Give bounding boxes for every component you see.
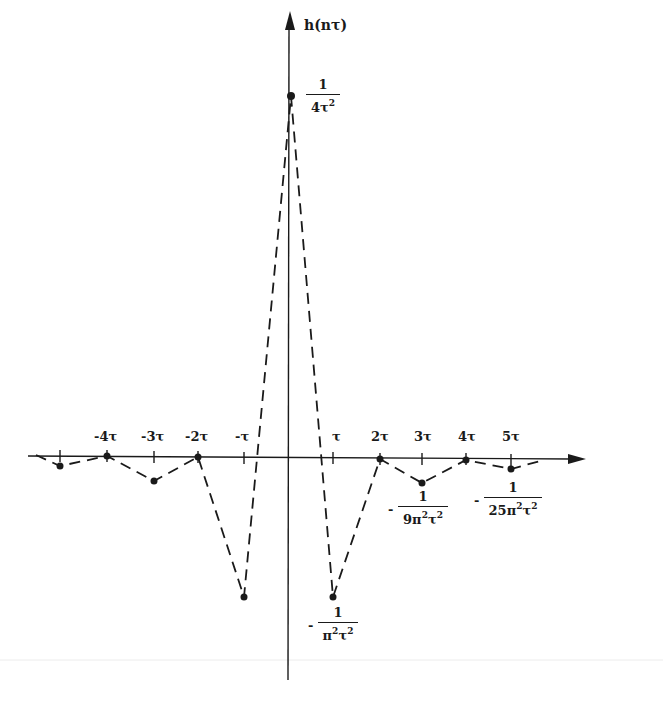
n5-den-a: 25π bbox=[489, 503, 517, 518]
marker-n5 bbox=[508, 466, 515, 473]
tick-label-m3: -3τ bbox=[141, 430, 164, 443]
peak-numerator: 1 bbox=[306, 78, 340, 94]
n3-annotation: - 1 9π2τ2 bbox=[398, 490, 448, 526]
n1-annotation: - 1 π2τ2 bbox=[318, 606, 358, 642]
n3-numerator: 1 bbox=[398, 490, 448, 506]
marker-n-3 bbox=[151, 478, 158, 485]
n3-den-a: 9π bbox=[403, 512, 422, 527]
n3-den-b: τ bbox=[428, 512, 437, 527]
peak-den-exp: 2 bbox=[329, 98, 335, 108]
tick-label-m2: -2τ bbox=[185, 430, 208, 443]
tick-label-p3: 3τ bbox=[414, 430, 432, 443]
y-axis-label: h(nτ) bbox=[304, 18, 347, 32]
tick-label-p2: 2τ bbox=[371, 430, 389, 443]
n1-den-b: τ bbox=[338, 628, 347, 643]
tick-label-p1: τ bbox=[332, 430, 341, 443]
marker-n3 bbox=[419, 480, 426, 487]
marker-n4 bbox=[463, 457, 470, 464]
n1-denominator: π2τ2 bbox=[318, 623, 358, 642]
n5-den-b: τ bbox=[522, 503, 531, 518]
peak-denominator: 4τ2 bbox=[306, 95, 340, 114]
n5-numerator: 1 bbox=[484, 481, 542, 497]
n1-den-a: π bbox=[323, 628, 333, 643]
n5-sup2: 2 bbox=[531, 501, 537, 511]
marker-n-5 bbox=[57, 463, 64, 470]
tick-label-m1: -τ bbox=[235, 430, 249, 443]
marker-n0 bbox=[287, 92, 295, 100]
minus-sign: - bbox=[474, 494, 479, 507]
marker-n-1 bbox=[241, 594, 248, 601]
tick-label-p5: 5τ bbox=[502, 430, 520, 443]
peak-annotation: 1 4τ2 bbox=[306, 78, 340, 114]
n3-denominator: 9π2τ2 bbox=[398, 507, 448, 526]
peak-den-base: 4τ bbox=[311, 100, 329, 115]
y-axis-label-text: h(nτ) bbox=[304, 17, 347, 33]
marker-n-2 bbox=[195, 454, 202, 461]
minus-sign: - bbox=[388, 503, 393, 516]
n1-numerator: 1 bbox=[318, 606, 358, 622]
marker-n2 bbox=[377, 456, 384, 463]
marker-n-4 bbox=[104, 453, 111, 460]
x-axis-arrow-icon bbox=[568, 454, 586, 464]
y-axis-arrow-icon bbox=[285, 11, 295, 30]
n3-sup2: 2 bbox=[437, 510, 443, 520]
n1-sup2: 2 bbox=[347, 626, 353, 636]
n5-denominator: 25π2τ2 bbox=[484, 498, 542, 517]
tick-label-m4: -4τ bbox=[94, 430, 117, 443]
tick-label-p4: 4τ bbox=[458, 430, 476, 443]
marker-n1 bbox=[330, 594, 337, 601]
n5-annotation: - 1 25π2τ2 bbox=[484, 481, 542, 517]
minus-sign: - bbox=[308, 619, 313, 632]
